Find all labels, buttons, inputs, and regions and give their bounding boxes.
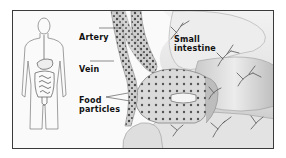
diagram-frame: Artery Vein Food particles Small intesti… [12, 10, 274, 149]
label-small-intestine: Small intestine [174, 35, 216, 53]
intestine-illustration [13, 11, 274, 149]
label-vein: Vein [79, 65, 99, 74]
label-artery: Artery [79, 33, 109, 42]
label-food-particles-line2: particles [79, 105, 120, 114]
label-food-particles-line1: Food [79, 96, 120, 105]
intestine-cross-section [135, 69, 218, 123]
label-food-particles: Food particles [79, 96, 120, 114]
human-figure-icon [22, 18, 66, 129]
label-small-intestine-line2: intestine [174, 44, 216, 53]
label-small-intestine-line1: Small [174, 35, 216, 44]
